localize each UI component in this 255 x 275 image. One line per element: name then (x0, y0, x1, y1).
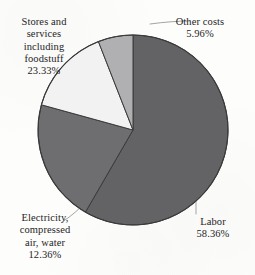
pie-label-labor-text: Labor (200, 216, 226, 227)
pie-label-other-costs-text: Other costs (176, 16, 225, 27)
pie-label-stores-percent: 23.33% (2, 65, 86, 77)
pie-label-electricity-percent: 12.36% (1, 249, 89, 261)
pie-label-electricity-text: Electricity, compressed air, water (20, 212, 71, 247)
pie-label-stores-text: Stores and services including foodstuff (21, 16, 66, 64)
pie-label-electricity: Electricity, compressed air, water 12.36… (1, 200, 89, 273)
pie-chart-figure: Stores and services including foodstuff … (0, 0, 255, 275)
pie-label-labor-percent: 58.36% (176, 228, 250, 240)
pie-label-stores: Stores and services including foodstuff … (2, 4, 86, 89)
pie-label-other-costs: Other costs 5.96% (152, 4, 248, 53)
pie-label-labor: Labor 58.36% (176, 204, 250, 253)
pie-label-other-costs-percent: 5.96% (152, 28, 248, 40)
